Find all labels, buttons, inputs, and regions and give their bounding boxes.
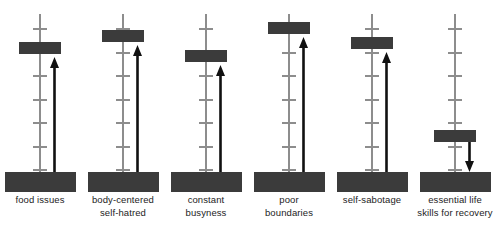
scale-tick (116, 75, 130, 77)
base-block (337, 172, 408, 192)
column-label-line: essential life (415, 194, 495, 207)
scale-tick (33, 28, 47, 30)
scale-tick (33, 75, 47, 77)
gauge-column-poor-boundaries: poorboundaries (249, 0, 329, 237)
base-block (420, 172, 491, 192)
gauge-column-food-issues: food issues (0, 0, 80, 237)
scale-line (39, 14, 41, 175)
scale-line (288, 14, 290, 175)
scale-tick (199, 75, 213, 77)
scale-tick (282, 52, 296, 54)
column-label: self-sabotage (332, 194, 412, 207)
arrow-up-icon (297, 37, 310, 176)
gauge-column-self-sabotage: self-sabotage (332, 0, 412, 237)
gauge-column-essential-life-skills-for-recovery: essential lifeskills for recovery (415, 0, 495, 237)
column-label: body-centeredself-hatred (83, 194, 163, 219)
scale-tick (448, 75, 462, 77)
scale-tick (33, 99, 47, 101)
scale-tick (282, 122, 296, 124)
scale-tick (365, 99, 379, 101)
scale-tick (448, 99, 462, 101)
scale-tick (365, 28, 379, 30)
scale-tick (282, 169, 296, 171)
scale-tick (199, 146, 213, 148)
column-label-line: constant (166, 194, 246, 207)
scale-tick (116, 52, 130, 54)
gauge-column-constant-busyness: constantbusyness (166, 0, 246, 237)
value-marker (185, 50, 227, 62)
scale-tick (448, 169, 462, 171)
base-block (5, 172, 76, 192)
value-marker (19, 42, 61, 54)
scale-tick (33, 122, 47, 124)
column-label-line: busyness (166, 207, 246, 220)
scale-tick (448, 122, 462, 124)
scale-tick (282, 99, 296, 101)
column-label-line: self-sabotage (332, 194, 412, 207)
scale-tick (116, 122, 130, 124)
scale-tick (199, 169, 213, 171)
gauge-column-body-centered-self-hatred: body-centeredself-hatred (83, 0, 163, 237)
scale-line (454, 14, 456, 175)
base-block (88, 172, 159, 192)
arrow-up-icon (131, 45, 144, 176)
value-marker (434, 130, 476, 142)
column-label-line: skills for recovery (415, 207, 495, 220)
scale-tick (199, 28, 213, 30)
scale-tick (282, 75, 296, 77)
column-label: food issues (0, 194, 80, 207)
scale-tick (33, 146, 47, 148)
column-label-line: body-centered (83, 194, 163, 207)
scale-tick (33, 169, 47, 171)
scale-tick (365, 75, 379, 77)
scale-tick (365, 169, 379, 171)
value-marker (102, 30, 144, 42)
column-label-line: self-hatred (83, 207, 163, 220)
scale-tick (365, 146, 379, 148)
scale-tick (365, 122, 379, 124)
base-block (171, 172, 242, 192)
column-label-line: food issues (0, 194, 80, 207)
column-label: essential lifeskills for recovery (415, 194, 495, 219)
value-marker (268, 22, 310, 34)
scale-tick (365, 52, 379, 54)
column-label: constantbusyness (166, 194, 246, 219)
scale-tick (116, 146, 130, 148)
scale-tick (199, 122, 213, 124)
column-label-line: boundaries (249, 207, 329, 220)
scale-tick (448, 52, 462, 54)
scale-tick (199, 99, 213, 101)
arrow-up-icon (214, 65, 227, 176)
scale-tick (282, 146, 296, 148)
scale-tick (116, 99, 130, 101)
diagram-canvas: food issuesbody-centeredself-hatredconst… (0, 0, 497, 237)
scale-tick (448, 146, 462, 148)
value-marker (351, 37, 393, 49)
scale-tick (116, 169, 130, 171)
base-block (254, 172, 325, 192)
scale-tick (448, 28, 462, 30)
column-label-line: poor (249, 194, 329, 207)
arrow-up-icon (380, 52, 393, 176)
scale-line (205, 14, 207, 175)
column-label: poorboundaries (249, 194, 329, 219)
arrow-down-icon (463, 142, 476, 172)
arrow-up-icon (48, 57, 61, 176)
